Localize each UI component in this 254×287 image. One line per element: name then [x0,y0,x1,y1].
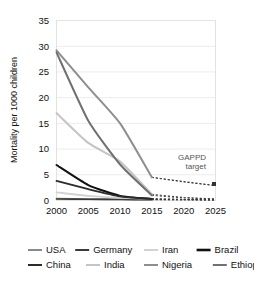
x-tick-2015: 2015 [141,205,162,216]
legend-label-china: China [46,259,72,270]
legend-label-nigeria: Nigeria [162,259,193,270]
y-axis-title: Mortality per 1000 children [9,57,19,163]
x-tick-2025: 2025 [205,205,226,216]
legend-label-india: India [104,259,125,270]
x-tick-2020: 2020 [173,205,194,216]
y-tick-5: 5 [44,169,49,180]
y-tick-30: 30 [38,41,49,52]
legend-label-usa: USA [46,244,66,255]
y-tick-10: 10 [38,143,49,154]
y-tick-25: 25 [38,66,49,77]
gappd-target-label-line1: GAPPD [178,153,206,162]
legend-label-brazil: Brazil [215,244,239,255]
legend-label-iran: Iran [162,244,178,255]
legend-label-ethiopia: Ethiopia [231,259,254,270]
chart-figure: 05101520253035 200020052010201520202025 … [0,0,254,287]
y-tick-20: 20 [38,92,49,103]
x-tick-2005: 2005 [78,205,99,216]
mortality-line-chart: 05101520253035 200020052010201520202025 … [0,0,254,287]
gappd-target-label-line2: target [186,162,207,171]
legend-label-germany: Germany [93,244,132,255]
y-tick-15: 15 [38,118,49,129]
x-tick-2010: 2010 [110,205,131,216]
x-tick-2000: 2000 [46,205,67,216]
y-tick-35: 35 [38,15,49,26]
gappd-target-marker [212,182,216,186]
